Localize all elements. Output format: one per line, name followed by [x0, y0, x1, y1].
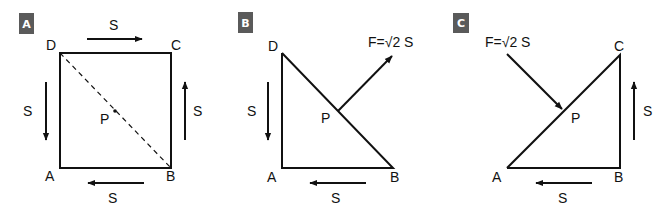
vertex-a-label: A: [267, 169, 277, 185]
vertex-b-label: B: [614, 169, 623, 185]
diagram-canvas: A D C A B P S S S S B D A B P F=√2 S S S: [0, 0, 671, 222]
force-right-label: S: [193, 103, 202, 119]
panel-badge-label: A: [22, 18, 31, 31]
panel-a: A D C A B P S S S S: [19, 13, 202, 206]
point-p-label: P: [321, 110, 330, 126]
point-p-label: P: [100, 111, 109, 127]
panel-b: B D A B P F=√2 S S S: [238, 12, 413, 206]
vertex-c-label: C: [171, 37, 181, 53]
force-bottom-label: S: [558, 190, 567, 206]
vertex-d-label: D: [46, 37, 56, 53]
arrow-resultant-up-right-icon: [338, 56, 392, 111]
resultant-force-label: F=√2 S: [485, 34, 530, 50]
force-left-label: S: [247, 103, 256, 119]
panel-badge-label: C: [457, 17, 465, 30]
force-bottom-label: S: [108, 190, 117, 206]
arrow-resultant-down-right-icon: [507, 54, 562, 109]
resultant-force-label: F=√2 S: [368, 34, 413, 50]
force-left-label: S: [23, 103, 32, 119]
force-top-label: S: [109, 17, 118, 33]
vertex-b-label: B: [390, 169, 399, 185]
vertex-b-label: B: [166, 168, 175, 184]
vertex-c-label: C: [614, 38, 624, 54]
panel-c: C C A B P F=√2 S S S: [453, 13, 652, 206]
vertex-d-label: D: [268, 38, 278, 54]
force-right-label: S: [643, 103, 652, 119]
panel-badge-label: B: [241, 17, 249, 30]
force-bottom-label: S: [331, 190, 340, 206]
vertex-a-label: A: [45, 168, 55, 184]
point-p-label: P: [571, 110, 580, 126]
point-p-dot: [113, 109, 117, 113]
vertex-a-label: A: [492, 169, 502, 185]
